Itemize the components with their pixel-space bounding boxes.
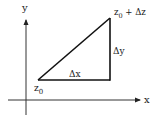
point-z0-label: z0: [34, 83, 43, 96]
y-axis-label: y: [21, 2, 28, 13]
delta-y-label: Δy: [113, 46, 125, 56]
delta-x-label: Δx: [69, 69, 81, 79]
diagram-canvas: y x z0 Δx Δy z0 + Δz: [0, 0, 158, 117]
x-axis: x: [8, 94, 150, 105]
y-axis: y: [21, 2, 28, 115]
x-axis-label: x: [144, 94, 150, 105]
point-z0-plus-dz-label: z0 + Δz: [114, 7, 146, 20]
